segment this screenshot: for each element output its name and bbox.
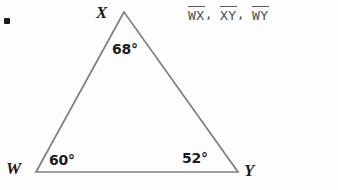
angle-measure-y: 52°	[182, 151, 208, 165]
segment-name-wy: WY	[252, 6, 269, 23]
segment-separator: ,	[237, 6, 252, 21]
vertex-label-w: W	[6, 160, 21, 177]
vertex-label-y: Y	[244, 162, 254, 179]
angle-measure-x: 68°	[112, 42, 138, 56]
triangle-outline	[36, 12, 238, 172]
segment-item: WY	[252, 6, 269, 23]
segment-item: XY ,	[220, 6, 252, 23]
segment-item: WX ,	[188, 6, 220, 23]
segment-name-wx: WX	[188, 6, 205, 23]
segment-name-xy: XY	[220, 6, 237, 23]
segment-notation-list: WX , XY , WY	[188, 6, 269, 23]
vertex-label-x: X	[96, 4, 107, 21]
angle-measure-w: 60°	[49, 153, 75, 167]
segment-separator: ,	[205, 6, 220, 21]
figure-canvas: X W Y 68° 60° 52° WX , XY , WY	[0, 0, 338, 190]
